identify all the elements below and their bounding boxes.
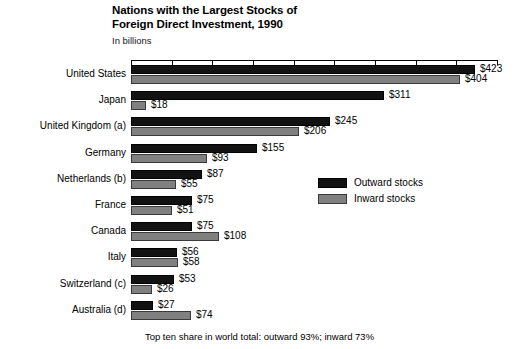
plot-area: $423$404$311$18$245$206$155$93$87$55$75$… [131, 60, 497, 322]
bar-outward [131, 301, 153, 310]
bar-row: $311$18 [131, 90, 497, 111]
bar-row: $56$58 [131, 247, 497, 268]
category-label: Australia (d) [2, 304, 126, 315]
bar-value-label: $55 [181, 179, 198, 189]
bar-value-label: $245 [335, 116, 357, 126]
chart-subtitle: In billions [112, 35, 442, 46]
category-label: Germany [2, 147, 126, 158]
bar-inward [131, 180, 176, 189]
bar-inward [131, 258, 178, 267]
bar-value-label: $206 [304, 126, 326, 136]
bar-value-label: $93 [212, 153, 229, 163]
bar-inward [131, 311, 191, 320]
bar-outward [131, 91, 384, 100]
bar-outward [131, 222, 192, 231]
category-label: Japan [2, 94, 126, 105]
legend-label: Outward stocks [354, 177, 423, 188]
category-label: Canada [2, 225, 126, 236]
bar-inward [131, 101, 146, 110]
page-title: Nations with the Largest Stocks of Forei… [112, 4, 442, 31]
bar-outward [131, 144, 257, 153]
category-label: Switzerland (c) [2, 278, 126, 289]
category-label: United States [2, 68, 126, 79]
bar-row: $75$108 [131, 221, 497, 242]
category-axis-labels: United StatesJapanUnited Kingdom (a)Germ… [0, 60, 126, 322]
bar-row: $155$93 [131, 143, 497, 164]
legend-item: Inward stocks [318, 192, 423, 205]
bar-inward [131, 127, 299, 136]
category-label: United Kingdom (a) [2, 120, 126, 131]
category-label: Italy [2, 251, 126, 262]
bar-inward [131, 232, 219, 241]
chart-title-line2: Foreign Direct Investment, 1990 [112, 18, 283, 30]
legend-item: Outward stocks [318, 176, 423, 189]
bar-inward [131, 285, 152, 294]
chart-footnote: Top ten share in world total: outward 93… [0, 331, 519, 342]
legend-swatch [318, 178, 347, 188]
bar-value-label: $58 [183, 257, 200, 267]
chart-legend: Outward stocksInward stocks [318, 176, 423, 208]
bar-outward [131, 65, 475, 74]
legend-swatch [318, 194, 347, 204]
category-label: France [2, 199, 126, 210]
bar-inward [131, 206, 172, 215]
bar-inward [131, 154, 207, 163]
bar-row: $53$26 [131, 274, 497, 295]
fdi-stocks-chart: Nations with the Largest Stocks of Forei… [0, 0, 519, 349]
bar-value-label: $18 [151, 100, 168, 110]
bar-value-label: $74 [196, 310, 213, 320]
top-axis-line [131, 60, 497, 61]
bar-value-label: $51 [177, 205, 194, 215]
bar-outward [131, 248, 177, 257]
chart-header: Nations with the Largest Stocks of Forei… [112, 4, 442, 46]
category-label: Netherlands (b) [2, 173, 126, 184]
bar-value-label: $155 [262, 143, 284, 153]
bar-value-label: $87 [207, 169, 224, 179]
bar-row: $75$51 [131, 195, 497, 216]
bar-value-label: $108 [224, 231, 246, 241]
bar-row: $27$74 [131, 300, 497, 321]
chart-title-line1: Nations with the Largest Stocks of [112, 4, 297, 16]
bar-value-label: $404 [465, 74, 487, 84]
bar-value-label: $26 [157, 284, 174, 294]
bar-inward [131, 75, 460, 84]
bar-row: $245$206 [131, 116, 497, 137]
bar-value-label: $311 [389, 90, 411, 100]
bar-value-label: $53 [179, 274, 196, 284]
bar-value-label: $75 [197, 221, 214, 231]
bar-row: $87$55 [131, 169, 497, 190]
bar-row: $423$404 [131, 64, 497, 85]
bar-value-label: $75 [197, 195, 214, 205]
bar-outward [131, 117, 330, 126]
legend-label: Inward stocks [354, 193, 415, 204]
bar-value-label: $27 [158, 300, 175, 310]
